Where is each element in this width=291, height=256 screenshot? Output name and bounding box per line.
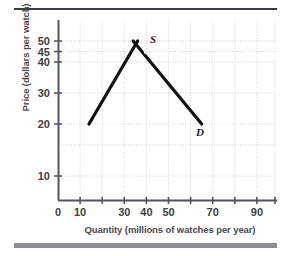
x-tick-label-90: 90 bbox=[251, 206, 263, 218]
x-tick-label-30: 30 bbox=[118, 206, 130, 218]
y-tick-label-30: 30 bbox=[38, 87, 50, 99]
x-axis-title: Quantity (millions of watches per year) bbox=[60, 224, 280, 235]
y-tick-label-10: 10 bbox=[38, 170, 50, 182]
supply-demand-chart: 50 45 40 30 20 10 0 10 30 40 50 70 90 S … bbox=[0, 0, 291, 256]
demand-curve bbox=[133, 41, 202, 124]
y-tick-label-40: 40 bbox=[38, 56, 50, 68]
supply-curve-label: S bbox=[150, 33, 156, 45]
x-tick-label-50: 50 bbox=[162, 206, 174, 218]
x-tick-label-10: 10 bbox=[74, 206, 86, 218]
supply-curve bbox=[89, 41, 138, 124]
bottom-divider-rule bbox=[14, 243, 277, 248]
y-tick-label-20: 20 bbox=[38, 118, 50, 130]
grid-vertical bbox=[80, 22, 275, 200]
x-tick-label-40: 40 bbox=[140, 206, 152, 218]
x-tick-label-0: 0 bbox=[55, 206, 61, 218]
x-tick-label-70: 70 bbox=[207, 206, 219, 218]
figure-container: Price (dollars per watch) bbox=[0, 0, 291, 256]
grid-horizontal bbox=[58, 41, 275, 176]
equilibrium-point bbox=[144, 49, 149, 54]
demand-curve-label: D bbox=[195, 126, 204, 138]
